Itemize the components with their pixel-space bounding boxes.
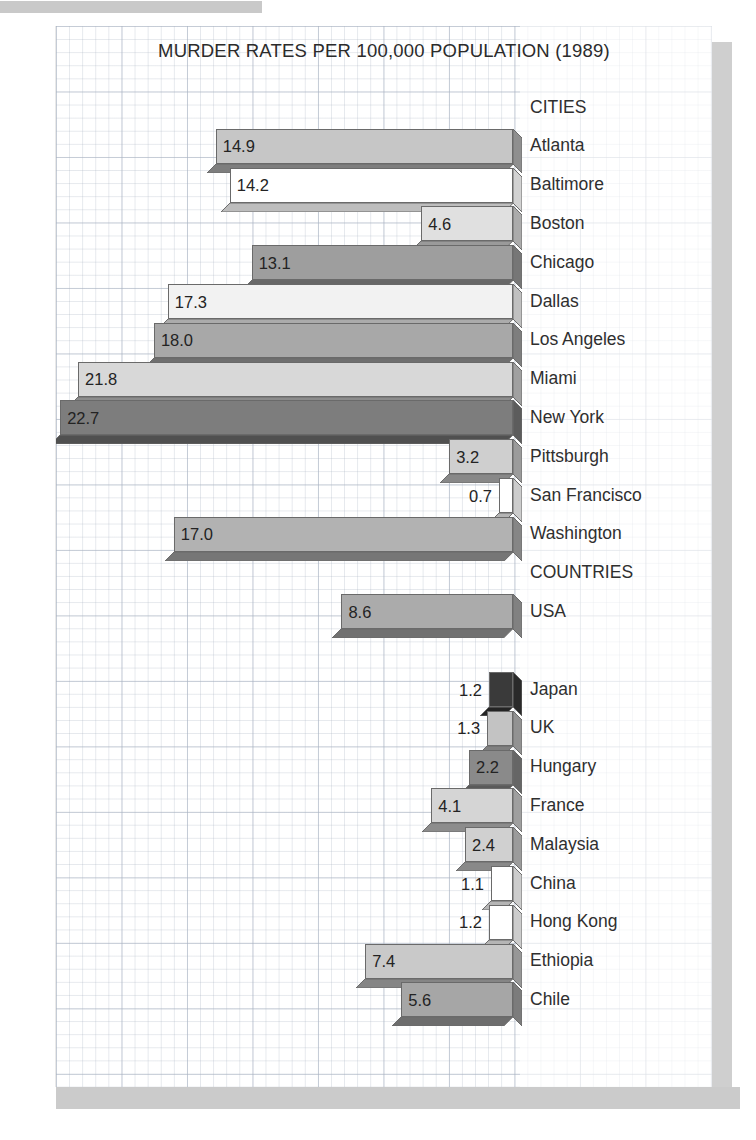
row-label-malaysia: Malaysia <box>530 836 599 854</box>
bar-value-label: 2.4 <box>472 836 495 853</box>
bar-value-label: 17.0 <box>181 526 213 543</box>
row-label-japan: Japan <box>530 681 578 699</box>
bar-front-face <box>168 284 513 319</box>
bar-side-face <box>513 594 522 629</box>
group-header-countries: COUNTRIES <box>530 564 633 582</box>
bar-side-face <box>513 750 522 785</box>
bar-side-face <box>513 129 522 164</box>
bar-value-label: 1.2 <box>459 681 482 698</box>
bar-value-label: 14.2 <box>237 177 269 194</box>
bar-front-face <box>252 245 513 280</box>
row-label-dallas: Dallas <box>530 293 579 311</box>
bar-value-label: 21.8 <box>85 371 117 388</box>
bar-value-label: 0.7 <box>469 487 492 504</box>
bar-side-face <box>513 788 522 823</box>
bar-front-face <box>60 400 513 435</box>
group-header-cities: CITIES <box>530 99 586 117</box>
bar-value-label: 17.3 <box>175 293 207 310</box>
bar-front-face <box>489 905 513 940</box>
top-decoration-strip <box>0 1 262 13</box>
bar-value-label: 1.1 <box>461 875 484 892</box>
bar-front-face <box>154 323 513 358</box>
bar-los-angeles: 18.0 <box>154 323 513 358</box>
bar-value-label: 2.2 <box>476 759 499 776</box>
bar-bottom-face <box>56 435 504 444</box>
bar-china: 1.1 <box>491 866 513 901</box>
row-label-atlanta: Atlanta <box>530 137 584 155</box>
bar-value-label: 4.6 <box>428 216 451 233</box>
bar-side-face <box>513 517 522 552</box>
bar-side-face <box>513 827 522 862</box>
bar-side-face <box>513 905 522 940</box>
bar-side-face <box>513 400 522 435</box>
bar-atlanta: 14.9 <box>216 129 513 164</box>
row-label-hungary: Hungary <box>530 758 596 776</box>
bar-front-face <box>78 362 513 397</box>
row-label-uk: UK <box>530 719 554 737</box>
bar-side-face <box>513 206 522 241</box>
bar-value-label: 14.9 <box>223 138 255 155</box>
bar-value-label: 1.3 <box>457 720 480 737</box>
bar-pittsburgh: 3.2 <box>449 439 513 474</box>
row-label-hong-kong: Hong Kong <box>530 913 618 931</box>
bar-malaysia: 2.4 <box>465 827 513 862</box>
bar-side-face <box>513 478 522 513</box>
bar-new-york: 22.7 <box>60 400 513 435</box>
bar-value-label: 18.0 <box>161 332 193 349</box>
bar-side-face <box>513 439 522 474</box>
bar-bottom-face <box>440 474 504 483</box>
bar-miami: 21.8 <box>78 362 513 397</box>
bar-front-face <box>230 168 513 203</box>
bar-front-face <box>489 672 513 707</box>
bar-boston: 4.6 <box>421 206 513 241</box>
bottom-decoration-strip <box>56 1087 740 1109</box>
bar-side-face <box>513 672 522 707</box>
bar-value-label: 8.6 <box>348 604 371 621</box>
bar-value-label: 22.7 <box>67 410 99 427</box>
row-label-ethiopia: Ethiopia <box>530 952 593 970</box>
bar-hungary: 2.2 <box>469 750 513 785</box>
bar-side-face <box>513 168 522 203</box>
bar-side-face <box>513 866 522 901</box>
row-label-usa: USA <box>530 603 566 621</box>
row-label-china: China <box>530 875 576 893</box>
bar-ethiopia: 7.4 <box>365 944 513 979</box>
bar-chicago: 13.1 <box>252 245 513 280</box>
row-label-los-angeles: Los Angeles <box>530 331 625 349</box>
bar-dallas: 17.3 <box>168 284 513 319</box>
row-label-baltimore: Baltimore <box>530 176 604 194</box>
row-label-miami: Miami <box>530 370 577 388</box>
bar-bottom-face <box>165 552 504 561</box>
bar-hong-kong: 1.2 <box>489 905 513 940</box>
bar-france: 4.1 <box>431 788 513 823</box>
bar-side-face <box>513 711 522 746</box>
bar-front-face <box>487 711 513 746</box>
row-label-washington: Washington <box>530 525 622 543</box>
bar-side-face <box>513 982 522 1017</box>
bar-front-face <box>216 129 513 164</box>
bar-value-label: 4.1 <box>438 798 461 815</box>
row-label-chile: Chile <box>530 991 570 1009</box>
bar-value-label: 13.1 <box>259 254 291 271</box>
bar-chile: 5.6 <box>401 982 513 1017</box>
row-label-boston: Boston <box>530 215 584 233</box>
bar-side-face <box>513 944 522 979</box>
row-label-chicago: Chicago <box>530 254 594 272</box>
bar-usa: 8.6 <box>341 594 513 629</box>
bar-san-francisco: 0.7 <box>499 478 513 513</box>
row-label-new-york: New York <box>530 409 604 427</box>
bar-side-face <box>513 245 522 280</box>
chart-title: MURDER RATES PER 100,000 POPULATION (198… <box>56 40 712 62</box>
row-label-san-francisco: San Francisco <box>530 487 642 505</box>
bar-value-label: 1.2 <box>459 914 482 931</box>
bar-bottom-face <box>332 629 504 638</box>
bar-side-face <box>513 284 522 319</box>
bar-front-face <box>491 866 513 901</box>
bar-side-face <box>513 362 522 397</box>
bar-value-label: 3.2 <box>456 448 479 465</box>
bar-front-face <box>174 517 513 552</box>
bar-value-label: 7.4 <box>372 953 395 970</box>
bar-front-face <box>499 478 513 513</box>
bar-japan: 1.2 <box>489 672 513 707</box>
row-label-pittsburgh: Pittsburgh <box>530 448 609 466</box>
